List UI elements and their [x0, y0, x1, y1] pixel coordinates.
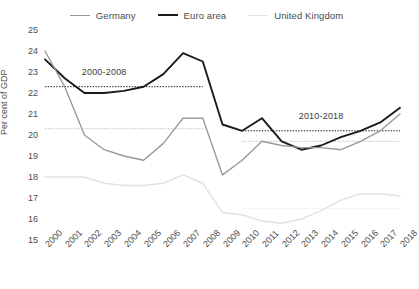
chart-annotation: 2000-2008	[82, 67, 127, 77]
y-axis: 2524232221201918171615	[0, 30, 44, 240]
y-axis-title: Per cent of GDP	[0, 69, 9, 135]
y-axis-tick-label: 20	[28, 130, 38, 140]
y-axis-tick-label: 21	[28, 109, 38, 119]
x-axis: 2000200120022003200420052006200720082009…	[45, 240, 400, 289]
y-axis-tick-label: 19	[28, 151, 38, 161]
y-axis-tick-label: 15	[28, 235, 38, 245]
y-axis-tick-label: 23	[28, 67, 38, 77]
legend-item-euro-area[interactable]: Euro area	[158, 10, 227, 21]
legend-item-germany[interactable]: Germany	[70, 10, 136, 21]
plot-area	[45, 30, 400, 240]
y-axis-tick-label: 22	[28, 88, 38, 98]
y-axis-tick-label: 16	[28, 214, 38, 224]
x-axis-tick-label: 2018	[398, 228, 419, 249]
y-axis-tick-label: 24	[28, 46, 38, 56]
legend-label: Euro area	[184, 10, 227, 21]
legend-swatch-icon	[70, 15, 90, 16]
chart-annotation: 2010-2018	[299, 111, 344, 121]
legend-item-united-kingdom[interactable]: United Kingdom	[248, 10, 343, 21]
series-line-united-kingdom	[45, 175, 400, 223]
legend-swatch-icon	[158, 14, 178, 16]
legend-swatch-icon	[248, 15, 268, 16]
legend-label: United Kingdom	[274, 10, 343, 21]
y-axis-tick-label: 18	[28, 172, 38, 182]
y-axis-tick-label: 25	[28, 25, 38, 35]
y-axis-tick-label: 17	[28, 193, 38, 203]
legend-label: Germany	[96, 10, 136, 21]
series-lines	[45, 30, 400, 240]
chart-legend: GermanyEuro areaUnited Kingdom	[0, 6, 413, 24]
